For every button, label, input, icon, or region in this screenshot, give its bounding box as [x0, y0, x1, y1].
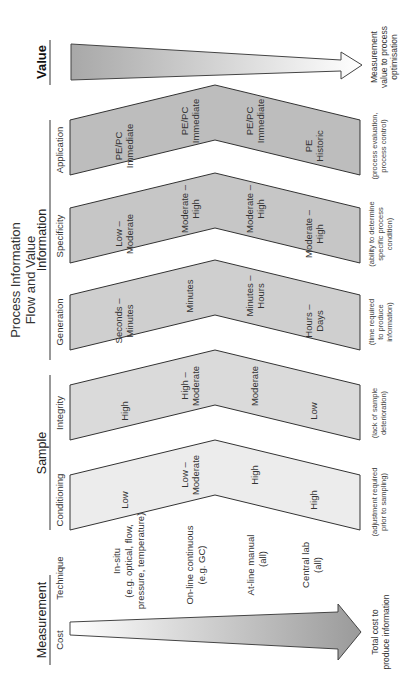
group-measurement: Measurement [35, 581, 49, 658]
chevron-specificity-shape [70, 173, 360, 263]
specificity-in-situ-2: Moderate [124, 214, 135, 254]
technique-on-line-line-2: (e.g. GC) [196, 545, 207, 584]
application-central-lab-2: Historic [314, 130, 325, 162]
diagram-title: Process Information Flow and Value [8, 222, 38, 338]
technique-central-lab-line-1: Central lab [300, 542, 311, 588]
technique-on-line-line-1: On-line continuous [184, 525, 195, 604]
application-at-line-1: PE/PC [244, 107, 255, 136]
generation-desc-3: information) [385, 302, 394, 342]
specificity-desc-2: specific process [376, 207, 385, 261]
technique-in-situ: In-situ (e.g. optical, flow, pressure, t… [111, 513, 146, 610]
integrity-central-lab: Low [308, 402, 319, 420]
column-integrity: Integrity [54, 396, 65, 430]
column-cost: Cost [54, 630, 65, 650]
application-on-line-2: Immediate [190, 99, 201, 143]
integrity-desc-1: (lack of sample [370, 388, 379, 438]
integrity-on-line-2: Moderate [190, 366, 201, 406]
application-on-line-1: PE/PC [179, 107, 190, 136]
title-line-1: Process Information [8, 222, 23, 338]
group-value: Value [34, 45, 49, 79]
technique-in-situ-line-2: (e.g. optical, flow, [123, 524, 134, 597]
column-specificity: Specificity [54, 214, 65, 257]
generation-central-lab-2: Days [314, 310, 325, 332]
technique-in-situ-line-3: pressure, temperature) [135, 513, 146, 610]
application-in-situ-2: Immediate [124, 124, 135, 168]
specificity-at-line-1: Moderate – [244, 184, 255, 233]
column-generation: Generation [54, 298, 65, 345]
chevron-generation: Seconds – Minutes Minutes Minutes – Hour… [70, 260, 394, 350]
cost-arrow-label-1: Total cost to [370, 609, 380, 655]
technique-on-line: On-line continuous (e.g. GC) [184, 525, 207, 604]
technique-central-lab: Central lab (all) [300, 542, 323, 588]
chevron-application: PE/PC Immediate PE/PC Immediate PE/PC Im… [70, 85, 388, 180]
application-at-line-2: Immediate [255, 99, 266, 143]
application-desc-1: (process evaluation, [370, 112, 379, 179]
chevron-conditioning: Low Low – Moderate High High (adjustment… [70, 440, 388, 536]
chevron-integrity-shape [70, 350, 360, 440]
generation-at-line-1: Minutes – [244, 275, 255, 317]
generation-in-situ-1: Seconds – [113, 298, 124, 344]
group-information: Information [35, 209, 49, 272]
technique-at-line: At-line manual (all) [245, 535, 268, 596]
chevron-conditioning-shape [70, 440, 360, 530]
technique-at-line-line-2: (all) [257, 551, 268, 567]
conditioning-desc-1: (adjustment required [370, 468, 379, 537]
technique-list: In-situ (e.g. optical, flow, pressure, t… [111, 513, 323, 610]
specificity-in-situ-1: Low – [113, 221, 124, 247]
column-technique: Technique [54, 556, 65, 599]
specificity-desc-3: condition) [385, 217, 394, 250]
integrity-on-line-1: High – [179, 372, 190, 400]
specificity-central-lab-2: High [314, 224, 325, 244]
value-arrow-shape [71, 44, 362, 80]
generation-desc-1: (time required [367, 299, 376, 345]
specificity-central-lab-1: Moderate – [303, 209, 314, 258]
generation-at-line-2: Hours [255, 283, 266, 309]
application-in-situ-1: PE/PC [113, 132, 124, 161]
process-information-diagram: Process Information Flow and Value Measu… [0, 0, 413, 689]
generation-desc-2: to produce [376, 304, 385, 339]
value-arrow-label-2: value to process [379, 26, 389, 88]
technique-in-situ-line-1: In-situ [111, 548, 122, 574]
value-arrow: Measurement value to process optimisatio… [71, 26, 399, 88]
diagram-stage: Process Information Flow and Value Measu… [0, 0, 413, 689]
specificity-on-line-2: High [190, 199, 201, 219]
column-conditioning: Conditioning [54, 474, 65, 527]
cost-arrow: Total cost to produce information [70, 594, 391, 669]
value-arrow-label-3: optimisation [389, 34, 399, 80]
specificity-on-line-1: Moderate – [179, 184, 190, 233]
value-arrow-label-1: Measurement [369, 30, 379, 83]
technique-at-line-line-1: At-line manual [245, 535, 256, 596]
cost-arrow-label-2: produce information [381, 594, 391, 669]
generation-in-situ-2: Minutes [124, 304, 135, 338]
conditioning-in-situ: Low [119, 491, 130, 509]
conditioning-desc-2: prior to sampling) [379, 473, 388, 531]
group-sample: Sample [35, 432, 49, 474]
chevron-integrity: High High – Moderate Moderate Low (lack … [70, 350, 388, 440]
integrity-in-situ: High [119, 401, 130, 421]
cost-arrow-shape [70, 604, 361, 660]
integrity-desc-2: deterioration) [379, 390, 388, 435]
generation-on-line: Minutes [184, 279, 195, 313]
conditioning-on-line-2: Moderate [190, 455, 201, 495]
application-desc-2: process control) [379, 119, 388, 173]
column-application: Application [54, 127, 65, 173]
technique-central-lab-line-2: (all) [312, 557, 323, 573]
conditioning-on-line-1: Low – [179, 462, 190, 488]
application-central-lab-1: PE [303, 140, 314, 153]
chevron-specificity: Low – Moderate Moderate – High Moderate … [70, 173, 394, 267]
conditioning-at-line: High [249, 465, 260, 485]
conditioning-central-lab: High [308, 490, 319, 510]
integrity-at-line: Moderate [249, 366, 260, 406]
specificity-at-line-2: High [255, 199, 266, 219]
specificity-desc-1: (ability to determine [367, 201, 376, 266]
generation-central-lab-1: Hours – [303, 304, 314, 338]
